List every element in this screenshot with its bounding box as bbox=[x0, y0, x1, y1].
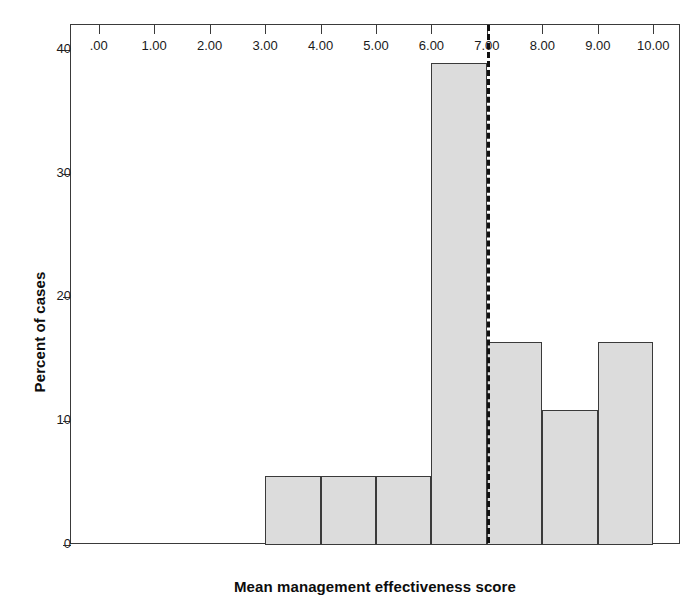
histogram-bar bbox=[598, 342, 653, 545]
x-axis-tick-label: 3.00 bbox=[252, 38, 277, 53]
y-axis-tick-label: 10 bbox=[57, 412, 71, 427]
x-axis-tick-label: 9.00 bbox=[585, 38, 610, 53]
x-axis-tick-label: 1.00 bbox=[142, 38, 167, 53]
y-axis-tick-label: 30 bbox=[57, 165, 71, 180]
x-axis-tick-label: .00 bbox=[90, 38, 108, 53]
x-axis-tick-mark bbox=[210, 25, 211, 34]
x-axis-tick-label: 10.00 bbox=[637, 38, 670, 53]
y-axis-tick-label: 20 bbox=[57, 288, 71, 303]
histogram-chart: Percent of cases 010203040 .001.002.003.… bbox=[0, 0, 693, 614]
histogram-bar bbox=[265, 476, 320, 545]
x-axis-tick-mark bbox=[376, 25, 377, 34]
x-axis-tick-label: 8.00 bbox=[530, 38, 555, 53]
x-axis-tick-mark bbox=[598, 25, 599, 34]
plot-area: 010203040 .001.002.003.004.005.006.007.0… bbox=[70, 24, 680, 544]
x-axis-tick-mark bbox=[321, 25, 322, 34]
y-axis-tick-label: 40 bbox=[57, 41, 71, 56]
x-axis-tick-label: 2.00 bbox=[197, 38, 222, 53]
x-axis-tick-mark bbox=[542, 25, 543, 34]
x-axis-tick-mark bbox=[653, 25, 654, 34]
x-axis-tick-mark bbox=[99, 25, 100, 34]
y-axis-title-text: Percent of cases bbox=[31, 272, 48, 393]
x-axis-tick-label: 5.00 bbox=[363, 38, 388, 53]
x-axis-tick-label: 6.00 bbox=[419, 38, 444, 53]
y-axis-title: Percent of cases bbox=[26, 0, 52, 614]
x-axis-title: Mean management effectiveness score bbox=[70, 578, 680, 595]
histogram-bar bbox=[431, 63, 486, 545]
x-axis-tick-mark bbox=[265, 25, 266, 34]
x-axis-tick-mark bbox=[154, 25, 155, 34]
x-axis-tick-label: 4.00 bbox=[308, 38, 333, 53]
vertical-reference-line bbox=[487, 25, 490, 543]
histogram-bar bbox=[487, 342, 542, 545]
histogram-bar bbox=[542, 410, 597, 545]
y-axis-tick-label: 0 bbox=[64, 536, 71, 551]
x-axis-tick-mark bbox=[431, 25, 432, 34]
histogram-bar bbox=[376, 476, 431, 545]
histogram-bar bbox=[321, 476, 376, 545]
